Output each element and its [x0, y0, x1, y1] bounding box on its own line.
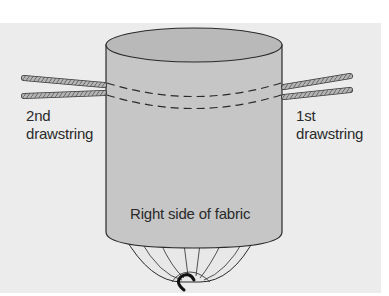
first-drawstring-label-line2: drawstring: [296, 125, 363, 143]
second-drawstring-label-line1: 2nd: [26, 107, 93, 125]
first-drawstring-label-line1: 1st: [296, 107, 363, 125]
fabric-side-label: Right side of fabric: [130, 205, 250, 223]
drawstring-bag-illustration: [0, 0, 389, 296]
second-drawstring-label-line2: drawstring: [26, 125, 93, 143]
first-drawstring-label: 1st drawstring: [296, 107, 363, 143]
second-drawstring-rope: [24, 78, 104, 96]
second-drawstring-label: 2nd drawstring: [26, 107, 93, 143]
first-drawstring-rope: [284, 76, 350, 97]
